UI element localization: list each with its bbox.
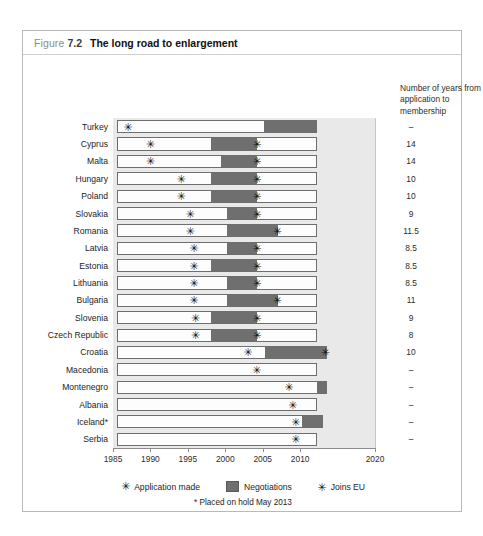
timeline-bar [117, 329, 317, 342]
country-label: Montenegro [23, 379, 108, 396]
figure-title: The long road to enlargement [90, 37, 238, 49]
timeline-bar [117, 137, 317, 150]
negotiations-segment [227, 225, 278, 236]
years-value: – [391, 396, 431, 413]
years-value: 8 [391, 326, 431, 343]
x-axis-tick-label: 1995 [179, 454, 198, 464]
years-value: 11.5 [391, 222, 431, 239]
chart-legend: ✳ Application made Negotiations ✳ Joins … [23, 480, 463, 493]
timeline-bar [117, 207, 317, 220]
timeline-bar [117, 294, 317, 307]
table-row: Montenegro✳– [23, 379, 463, 396]
negotiations-segment [211, 260, 257, 271]
table-row: Albania✳– [23, 396, 463, 413]
x-axis-tick-label: 1990 [141, 454, 160, 464]
legend-item-joins: ✳ Joins EU [318, 481, 365, 493]
bold-asterisk-icon: ✳ [318, 481, 327, 493]
country-label: Poland [23, 187, 108, 204]
x-axis-tick [263, 448, 264, 452]
legend-item-application: ✳ Application made [121, 480, 200, 493]
country-label: Slovakia [23, 205, 108, 222]
negotiations-segment [227, 243, 258, 254]
years-value: 14 [391, 135, 431, 152]
table-row: Latvia✳✳8.5 [23, 240, 463, 257]
years-value: 8.5 [391, 257, 431, 274]
country-label: Estonia [23, 257, 108, 274]
table-row: Hungary✳✳10 [23, 170, 463, 187]
legend-label-application: Application made [134, 482, 200, 492]
figure-panel: Figure 7.2 The long road to enlargement … [22, 30, 462, 512]
timeline-bar [117, 346, 327, 359]
x-axis-tick-label: 2010 [291, 454, 310, 464]
timeline-bar [117, 190, 317, 203]
country-label: Latvia [23, 240, 108, 257]
years-value: – [391, 413, 431, 430]
legend-label-negotiations: Negotiations [244, 482, 292, 492]
negotiations-segment [264, 121, 317, 132]
x-axis-tick [300, 448, 301, 452]
country-label: Turkey [23, 118, 108, 135]
legend-label-joins: Joins EU [331, 482, 365, 492]
country-label: Cyprus [23, 135, 108, 152]
country-label: Croatia [23, 344, 108, 361]
timeline-bar [117, 155, 317, 168]
country-label: Bulgaria [23, 292, 108, 309]
country-label: Malta [23, 153, 108, 170]
negotiations-segment [227, 208, 258, 219]
legend-item-negotiations: Negotiations [226, 481, 292, 492]
x-axis-tick-label: 2020 [366, 454, 385, 464]
years-value: 14 [391, 153, 431, 170]
x-axis-tick [150, 448, 151, 452]
table-row: Iceland*✳– [23, 413, 463, 430]
timeline-bar [117, 172, 317, 185]
x-axis-tick-label: 1985 [104, 454, 123, 464]
negotiations-segment [211, 173, 257, 184]
negotiations-segment [227, 295, 278, 306]
table-row: Malta✳✳14 [23, 153, 463, 170]
years-value: 10 [391, 344, 431, 361]
table-row: Slovakia✳✳9 [23, 205, 463, 222]
timeline-bar [117, 276, 317, 289]
country-label: Hungary [23, 170, 108, 187]
years-value: 10 [391, 187, 431, 204]
x-axis-tick [188, 448, 189, 452]
country-label: Czech Republic [23, 326, 108, 343]
timeline-bar [117, 224, 317, 237]
negotiations-segment [302, 416, 323, 427]
country-label: Serbia [23, 431, 108, 448]
country-label: Lithuania [23, 274, 108, 291]
negotiations-segment [211, 330, 257, 341]
years-value: – [391, 431, 431, 448]
negotiations-segment [211, 138, 257, 149]
negotiations-segment [317, 382, 327, 393]
x-axis-tick [225, 448, 226, 452]
negotiations-segment [221, 156, 258, 167]
years-value: 9 [391, 309, 431, 326]
figure-caption: Figure 7.2 The long road to enlargement [23, 31, 461, 55]
negotiations-segment [211, 312, 257, 323]
table-row: Estonia✳✳8.5 [23, 257, 463, 274]
timeline-bar [117, 433, 317, 446]
years-value: 9 [391, 205, 431, 222]
country-label: Iceland* [23, 413, 108, 430]
figure-footnote: * Placed on hold May 2013 [23, 498, 463, 507]
negotiations-segment [265, 347, 327, 358]
country-label: Romania [23, 222, 108, 239]
years-value: – [391, 379, 431, 396]
years-column-header: Number of years from application to memb… [400, 83, 483, 117]
figure-number: 7.2 [67, 37, 82, 49]
negotiations-swatch-icon [226, 481, 239, 492]
table-row: Slovenia✳✳9 [23, 309, 463, 326]
table-row: Lithuania✳✳8.5 [23, 274, 463, 291]
table-row: Poland✳✳10 [23, 187, 463, 204]
table-row: Czech Republic✳✳8 [23, 326, 463, 343]
table-row: Macedonia✳– [23, 361, 463, 378]
table-row: Croatia✳✳10 [23, 344, 463, 361]
timeline-bar [117, 398, 317, 411]
x-axis-tick [113, 448, 114, 452]
table-row: Turkey✳– [23, 118, 463, 135]
asterisk-icon: ✳ [121, 480, 130, 493]
years-value: – [391, 361, 431, 378]
timeline-bar [117, 363, 317, 376]
table-row: Romania✳✳11.5 [23, 222, 463, 239]
